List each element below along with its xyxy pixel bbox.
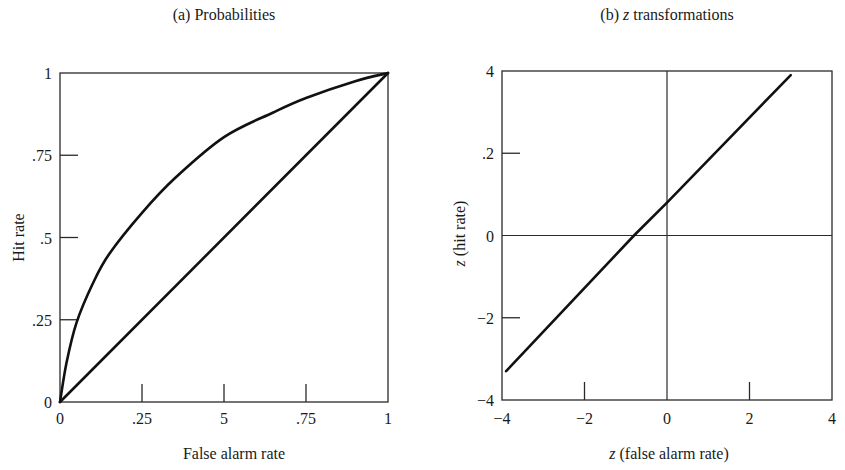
x-tick-label: 4	[828, 410, 836, 427]
y-tick-label: −4	[477, 392, 494, 409]
y-tick-label: .5	[40, 230, 52, 247]
panel-a-plot: 00.25.255.5.75.7511False alarm rateHit r…	[10, 65, 392, 462]
x-axis-label: z (false alarm rate)	[608, 445, 729, 463]
y-axis-label: z (hit rate)	[451, 201, 469, 268]
y-tick-label: −2	[477, 310, 494, 327]
y-tick-label: 1	[44, 65, 52, 82]
figure-canvas: 00.25.255.5.75.7511False alarm rateHit r…	[0, 0, 845, 470]
x-tick-label: −2	[576, 410, 593, 427]
x-tick-label: 2	[746, 410, 754, 427]
y-tick-label: 0	[44, 394, 52, 411]
z-roc-line	[506, 75, 791, 371]
x-tick-label: 0	[56, 410, 64, 427]
x-axis-label: False alarm rate	[183, 445, 285, 462]
x-tick-label: 1	[384, 410, 392, 427]
y-axis-label: Hit rate	[10, 213, 27, 261]
y-tick-label: .2	[482, 145, 494, 162]
x-tick-label: −4	[493, 410, 510, 427]
panel-b-plot: −4−4−2−2002.244z (false alarm rate)z (hi…	[451, 63, 836, 463]
y-tick-label: 0	[486, 228, 494, 245]
chance-diagonal	[60, 73, 388, 402]
y-tick-label: 4	[486, 63, 494, 80]
x-tick-label: 0	[663, 410, 671, 427]
y-tick-label: .75	[32, 147, 52, 164]
x-tick-label: .75	[296, 410, 316, 427]
x-tick-label: .25	[132, 410, 152, 427]
y-tick-label: .25	[32, 312, 52, 329]
x-tick-label: 5	[220, 410, 228, 427]
